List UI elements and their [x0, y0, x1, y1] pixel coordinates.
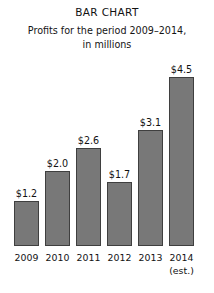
bar-group-2010: $2.02010 — [42, 0, 73, 293]
bar-2014 — [169, 77, 194, 246]
bar-value-label-2012: $1.7 — [104, 169, 135, 180]
bar-2013 — [138, 130, 163, 246]
bar-note-2014: (est.) — [165, 265, 198, 276]
bar-category-label-2010: 2010 — [41, 252, 74, 263]
bar-group-2009: $1.22009 — [11, 0, 42, 293]
bar-group-2014: $4.52014(est.) — [166, 0, 197, 293]
bar-category-label-2012: 2012 — [103, 252, 136, 263]
plot-area: $1.22009$2.02010$2.62011$1.72012$3.12013… — [0, 0, 214, 293]
bar-value-label-2013: $3.1 — [135, 117, 166, 128]
bar-category-label-2013: 2013 — [134, 252, 167, 263]
bar-chart-figure: BAR CHART Profits for the period 2009–20… — [0, 0, 214, 293]
bar-value-label-2014: $4.5 — [166, 64, 197, 75]
bar-value-label-2010: $2.0 — [42, 158, 73, 169]
bar-category-label-2011: 2011 — [72, 252, 105, 263]
bar-2009 — [14, 201, 39, 246]
bar-group-2011: $2.62011 — [73, 0, 104, 293]
bar-category-label-2009: 2009 — [10, 252, 43, 263]
bar-group-2013: $3.12013 — [135, 0, 166, 293]
bar-category-label-2014: 2014 — [165, 252, 198, 263]
bar-value-label-2009: $1.2 — [11, 188, 42, 199]
bar-group-2012: $1.72012 — [104, 0, 135, 293]
bar-value-label-2011: $2.6 — [73, 135, 104, 146]
bar-2012 — [107, 182, 132, 246]
bar-2011 — [76, 148, 101, 246]
bar-2010 — [45, 171, 70, 246]
